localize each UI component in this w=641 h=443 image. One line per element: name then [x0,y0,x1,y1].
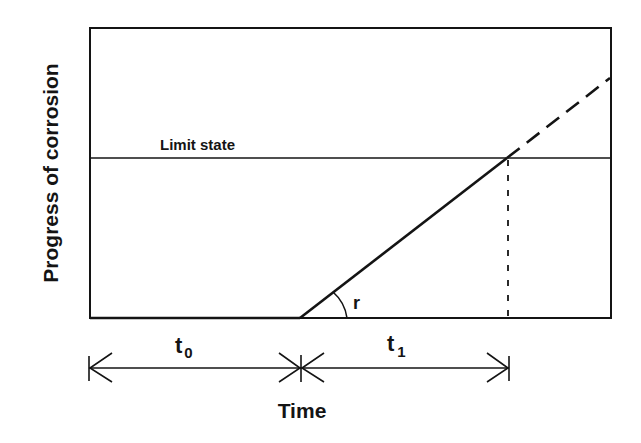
t0-label: t0 [175,333,193,361]
slope-label: r [353,293,360,313]
x-axis-title: Time [278,399,327,422]
t1-label: t1 [387,331,406,360]
slope-angle-arc [333,292,347,318]
plot-frame [90,28,611,318]
limit-state-label: Limit state [160,136,235,153]
dimension-t0 [89,353,301,382]
corrosion-diagram: r Limit state Progress of corrosion t0 t… [0,0,641,443]
propagation-line [300,158,507,318]
y-axis-title: Progress of corrosion [39,63,62,282]
propagation-extension-dashed [507,78,610,158]
